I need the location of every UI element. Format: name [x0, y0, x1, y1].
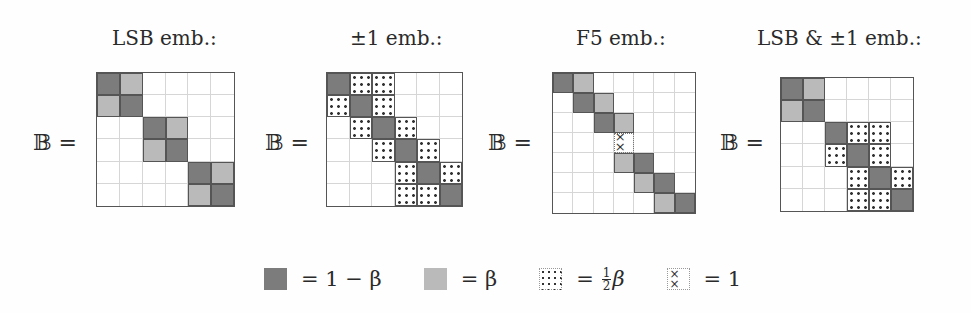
legend-label-dark: = 1 − β: [301, 267, 382, 291]
matrix-cell: [594, 173, 614, 193]
matrix-cell: [573, 93, 593, 113]
matrix-cell: [781, 122, 803, 144]
matrix-cell: [143, 95, 166, 117]
matrix-cell: [166, 139, 189, 161]
matrix-cell: [891, 122, 913, 144]
matrix-cell: [120, 95, 143, 117]
fraction-numerator: 1: [602, 267, 612, 280]
crossed-swatch-icon: [667, 268, 690, 290]
fraction-half: 1 2: [602, 267, 612, 292]
matrix-cell: [594, 193, 614, 213]
matrix-cell: [634, 153, 654, 173]
matrix-cell: [553, 153, 573, 173]
matrix-cell: [166, 95, 189, 117]
matrix-cell: [825, 100, 847, 122]
matrix-cell: [440, 139, 463, 161]
matrix-cell: [803, 122, 825, 144]
matrix-cell: [634, 73, 654, 93]
matrix-cell: [97, 162, 120, 184]
matrix-cell: [847, 100, 869, 122]
matrix-cell: [634, 93, 654, 113]
matrix-cell: [372, 139, 395, 161]
matrix-label-f5: 𝔹 =: [488, 130, 532, 155]
matrix-cell: [781, 100, 803, 122]
matrix-cell: [594, 73, 614, 93]
matrix-cell: [327, 73, 350, 95]
matrix-cell: [440, 162, 463, 184]
matrix-cell: [553, 73, 573, 93]
matrix-cell: [327, 162, 350, 184]
matrix-cell: [97, 73, 120, 95]
matrix-cell: [825, 78, 847, 100]
matrix-cell: [417, 184, 440, 206]
matrix-cell: [614, 193, 634, 213]
matrix-cell: [372, 73, 395, 95]
legend-item-dark: = 1 − β: [264, 267, 382, 291]
matrix-cell: [166, 73, 189, 95]
matrix-cell: [675, 113, 695, 133]
matrix-cell: [594, 93, 614, 113]
legend-label-crossed: = 1: [704, 267, 742, 291]
matrix-cell: [869, 144, 891, 166]
matrix-cell: [847, 189, 869, 211]
matrix-cell: [97, 117, 120, 139]
matrix-cell: [869, 167, 891, 189]
matrix-cell: [675, 153, 695, 173]
matrix-cell: [327, 184, 350, 206]
matrix-cell: [675, 93, 695, 113]
legend-item-dotted: = 1 2 β: [539, 267, 624, 292]
matrix-cell: [97, 139, 120, 161]
matrix-cell: [553, 113, 573, 133]
matrix-cell: [372, 184, 395, 206]
matrix-cell: [395, 139, 418, 161]
matrix-cell: [654, 173, 674, 193]
matrix-cell: [417, 162, 440, 184]
matrix-cell: [594, 113, 614, 133]
matrix-cell: [120, 184, 143, 206]
matrix-cell: [553, 173, 573, 193]
matrix-cell: [120, 73, 143, 95]
matrix-cell: [395, 95, 418, 117]
matrix-cell: [143, 73, 166, 95]
matrix-cell: [166, 117, 189, 139]
matrix-cell: [803, 100, 825, 122]
matrix-cell: [614, 93, 634, 113]
matrix-cell: [211, 162, 234, 184]
matrix-cell: [891, 167, 913, 189]
matrix-cell: [188, 95, 211, 117]
matrix-grid-pm1: [326, 72, 463, 207]
matrix-cell: [395, 73, 418, 95]
matrix-cell: [675, 133, 695, 153]
matrix-cell: [211, 73, 234, 95]
matrix-cell: [803, 78, 825, 100]
matrix-label-pm1: 𝔹 =: [265, 130, 309, 155]
panel-title-lsb-pm1: LSB & ±1 emb.:: [757, 26, 922, 50]
matrix-cell: [614, 173, 634, 193]
matrix-cell: [825, 122, 847, 144]
matrix-label-lsb: 𝔹 =: [33, 130, 77, 155]
light-swatch-icon: [424, 268, 447, 290]
matrix-cell: [847, 122, 869, 144]
panel-title-lsb: LSB emb.:: [112, 26, 217, 50]
matrix-cell: [417, 139, 440, 161]
matrix-cell: [372, 95, 395, 117]
matrix-cell: [553, 133, 573, 153]
matrix-cell: [120, 139, 143, 161]
matrix-cell: [594, 133, 614, 153]
matrix-cell: [573, 73, 593, 93]
matrix-cell: [395, 184, 418, 206]
matrix-cell: [120, 117, 143, 139]
matrix-cell: [372, 162, 395, 184]
matrix-cell: [614, 73, 634, 93]
matrix-cell: [654, 133, 674, 153]
matrix-cell: [350, 139, 373, 161]
legend: = 1 − β = β = 1 2 β = 1: [264, 266, 783, 292]
matrix-cell: [188, 162, 211, 184]
matrix-cell: [143, 139, 166, 161]
matrix-cell: [781, 189, 803, 211]
matrix-cell: [573, 133, 593, 153]
matrix-cell: [634, 193, 654, 213]
matrix-cell: [573, 193, 593, 213]
matrix-cell: [825, 189, 847, 211]
panel-title-pm1: ±1 emb.:: [350, 26, 443, 50]
